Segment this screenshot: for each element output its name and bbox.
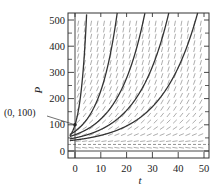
field-segment	[91, 40, 92, 45]
field-segment	[180, 113, 183, 117]
field-segment	[95, 147, 100, 148]
field-segment	[83, 106, 86, 110]
field-segment	[187, 34, 188, 39]
field-segment	[135, 113, 138, 117]
field-segment	[91, 34, 92, 39]
plot-frame	[68, 13, 209, 158]
field-segment	[187, 60, 188, 65]
solution-curve-5	[70, 13, 198, 141]
field-segment	[181, 40, 182, 45]
field-segment	[129, 73, 131, 78]
field-segment	[185, 141, 190, 142]
field-segment	[84, 93, 86, 98]
field-segment	[200, 86, 202, 91]
field-segment	[136, 27, 137, 32]
field-segment	[136, 60, 137, 65]
field-segment	[174, 86, 176, 91]
field-segment	[174, 106, 177, 110]
field-segment	[148, 86, 150, 91]
field-segment	[200, 100, 203, 105]
field-segment	[129, 21, 130, 26]
field-segment	[84, 27, 85, 32]
field-segment	[154, 106, 157, 110]
field-segment	[160, 134, 165, 136]
field-segment	[180, 120, 184, 124]
field-segment	[110, 73, 112, 78]
field-segment	[84, 73, 86, 78]
field-segment	[187, 86, 189, 91]
field-segment	[168, 67, 170, 72]
field-segment	[161, 73, 163, 78]
field-segment	[127, 141, 132, 142]
field-segment	[173, 134, 178, 136]
field-segment	[167, 120, 171, 124]
field-segment	[161, 80, 163, 85]
y-tick-label: 300	[49, 67, 65, 78]
field-segment	[122, 93, 124, 98]
field-segment	[128, 127, 132, 130]
field-segment	[103, 34, 104, 39]
field-segment	[148, 113, 151, 117]
field-segment	[129, 80, 131, 85]
field-segment	[114, 141, 119, 142]
field-segment	[153, 127, 157, 130]
field-segment	[187, 67, 189, 72]
field-segment	[174, 40, 175, 45]
field-segment	[160, 127, 164, 130]
field-segment	[173, 113, 176, 117]
field-segment	[97, 60, 98, 65]
field-segment	[193, 80, 195, 85]
y-tick-label: 200	[49, 93, 65, 104]
field-segment	[122, 106, 125, 110]
field-segment	[155, 21, 156, 26]
field-segment	[82, 141, 87, 142]
field-segment	[194, 47, 195, 52]
field-segment	[185, 134, 190, 136]
field-segment	[136, 21, 137, 26]
field-segment	[102, 120, 106, 124]
field-segment	[147, 147, 152, 148]
field-segment	[77, 73, 79, 78]
x-tick-label: 40	[173, 163, 184, 174]
field-segment	[142, 40, 143, 45]
field-segment	[103, 86, 105, 91]
field-segment	[77, 86, 79, 91]
field-segment	[122, 120, 126, 124]
field-segment	[166, 147, 171, 148]
field-segment	[192, 147, 197, 148]
field-segment	[135, 86, 137, 91]
field-segment	[168, 21, 169, 26]
field-segment	[187, 27, 188, 32]
field-segment	[128, 113, 131, 117]
field-segment	[129, 100, 132, 105]
field-segment	[149, 34, 150, 39]
field-segment	[200, 21, 201, 26]
field-segment	[140, 134, 145, 136]
field-segment	[147, 134, 152, 136]
field-segment	[174, 21, 175, 26]
field-segment	[147, 127, 151, 130]
field-segment	[101, 147, 106, 148]
field-segment	[116, 86, 118, 91]
field-segment	[194, 27, 195, 32]
field-segment	[180, 100, 183, 105]
field-segment	[104, 27, 105, 32]
field-segment	[121, 134, 126, 136]
field-segment	[109, 100, 112, 105]
field-segment	[198, 141, 203, 142]
field-segment	[194, 54, 195, 59]
field-segment	[142, 34, 143, 39]
field-segment	[90, 100, 93, 105]
field-segment	[115, 113, 118, 117]
field-segment	[153, 141, 158, 142]
field-segment	[136, 54, 137, 59]
field-segment	[161, 54, 162, 59]
field-segment	[142, 80, 144, 85]
field-segment	[108, 141, 113, 142]
field-segment	[78, 54, 79, 59]
field-segment	[166, 141, 171, 142]
field-segment	[116, 80, 118, 85]
field-segment	[194, 34, 195, 39]
field-segment	[123, 67, 125, 72]
field-segment	[78, 47, 79, 52]
